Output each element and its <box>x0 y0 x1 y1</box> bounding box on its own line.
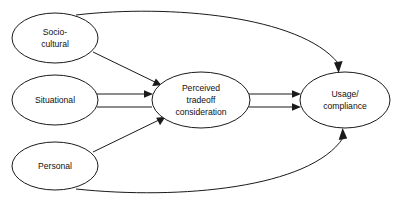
edge-socio-to-perceived <box>93 52 162 86</box>
node-usage-compliance[interactable]: Usage/ compliance <box>300 72 390 128</box>
edge-socio-to-usage <box>76 11 343 73</box>
edge-socio-to-usage-line <box>76 11 338 63</box>
diagram-canvas: Socio- cultural Situational Personal Per… <box>0 0 402 202</box>
edge-situational-to-perceived <box>97 90 153 107</box>
node-usage-compliance-label-line1: Usage/ <box>331 89 359 99</box>
edge-socio-to-perceived-line <box>93 52 157 83</box>
edge-perceived-to-usage-lower-arrowhead <box>292 103 301 111</box>
node-socio-cultural-ellipse <box>12 13 98 63</box>
node-usage-compliance-ellipse <box>300 72 390 128</box>
edge-personal-to-usage-arrowhead <box>339 128 348 140</box>
node-personal-label: Personal <box>38 161 72 171</box>
path-model-diagram: Socio- cultural Situational Personal Per… <box>0 0 402 202</box>
edge-situational-to-perceived-arrowhead <box>144 90 153 98</box>
edge-socio-to-usage-arrowhead <box>334 61 343 73</box>
node-socio-cultural[interactable]: Socio- cultural <box>12 13 98 63</box>
node-socio-cultural-label-line2: cultural <box>41 39 69 49</box>
node-perceived-tradeoff[interactable]: Perceived tradeoff consideration <box>152 72 250 128</box>
edge-perceived-to-usage-upper-arrowhead <box>292 90 301 98</box>
edge-personal-to-usage <box>76 128 347 193</box>
node-situational[interactable]: Situational <box>12 75 98 125</box>
edge-personal-to-perceived-line <box>93 119 161 152</box>
node-socio-cultural-label-line1: Socio- <box>43 27 67 37</box>
edge-personal-to-perceived <box>93 117 166 152</box>
node-usage-compliance-label-line2: compliance <box>323 101 367 111</box>
node-perceived-tradeoff-label-line1: Perceived <box>182 83 220 93</box>
node-situational-label: Situational <box>35 95 75 105</box>
edge-personal-to-usage-line <box>76 138 343 193</box>
node-personal[interactable]: Personal <box>12 142 98 190</box>
node-perceived-tradeoff-label-line3: consideration <box>175 107 226 117</box>
node-perceived-tradeoff-label-line2: tradeoff <box>187 95 217 105</box>
edge-perceived-to-usage <box>249 90 301 111</box>
